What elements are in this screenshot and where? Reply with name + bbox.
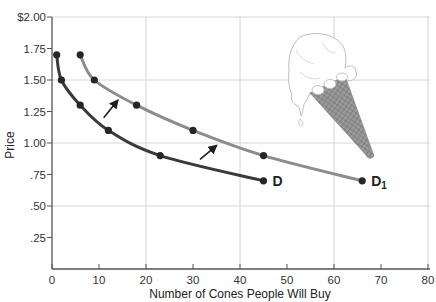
demand-chart: 01020304050607080.25.50.751.001.251.501.… [0,0,436,302]
y-tick-label: .75 [30,169,46,181]
y-tick-label: 1.00 [24,137,46,149]
y-tick-label: 1.25 [24,106,46,118]
data-point [189,127,196,134]
y-tick-label: .50 [30,200,46,212]
data-point [91,76,98,83]
shift-arrows [104,100,217,159]
x-tick-label: 50 [281,274,294,286]
data-point [105,127,112,134]
x-axis-title: Number of Cones People Will Buy [149,287,330,301]
data-point [157,152,164,159]
data-point [260,177,267,184]
x-tick-label: 0 [49,274,55,286]
x-tick-label: 70 [375,274,388,286]
shift-arrow-icon [104,100,118,118]
shift-arrow-icon [200,146,216,160]
x-tick-label: 40 [234,274,247,286]
data-point [53,51,60,58]
y-tick-label: 1.75 [24,43,46,55]
data-point [260,152,267,159]
x-tick-label: 20 [140,274,153,286]
curve-label: D [273,173,283,189]
data-point [58,76,65,83]
x-tick-label: 30 [187,274,200,286]
data-point [359,177,366,184]
data-point [133,102,140,109]
y-axis-title: Price [3,131,17,159]
y-tick-label: 1.50 [24,74,46,86]
curve-label: D1 [371,173,387,191]
grid-lines [52,17,430,269]
ice-cream-cone-icon [289,34,374,159]
x-tick-label: 10 [93,274,106,286]
data-point [77,51,84,58]
y-tick-label: $2.00 [17,11,46,23]
x-tick-label: 60 [328,274,341,286]
y-tick-label: .25 [30,232,46,244]
x-tick-label: 80 [422,274,435,286]
data-point [77,102,84,109]
